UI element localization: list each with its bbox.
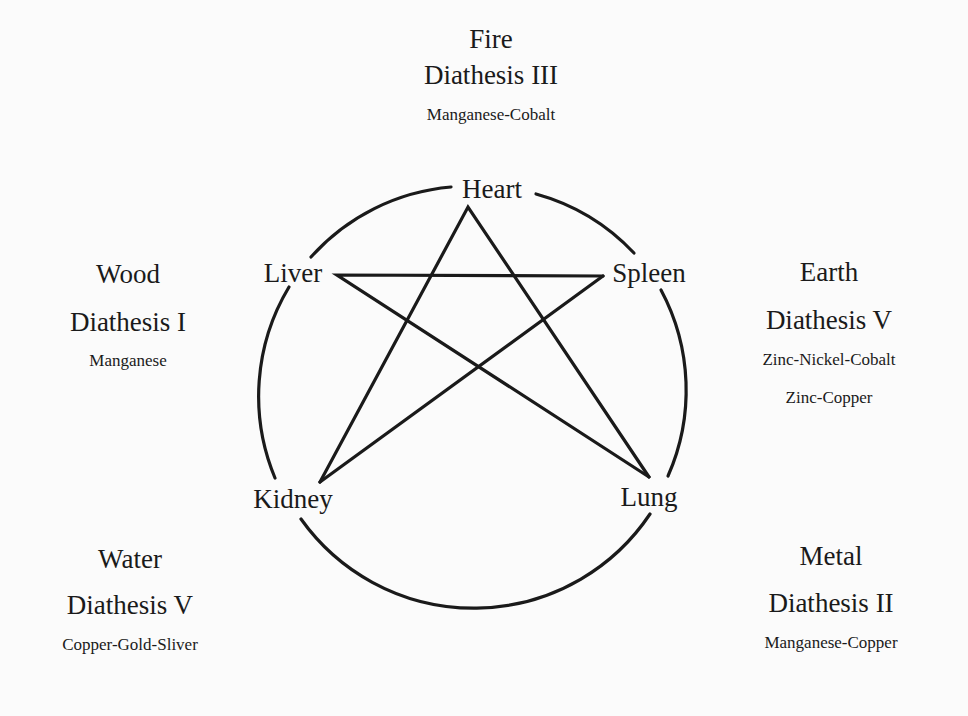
mineral-label: Copper-Gold-Sliver bbox=[62, 635, 198, 655]
element-name: Metal bbox=[764, 541, 897, 571]
arc-spleen-lung bbox=[661, 290, 686, 476]
star-line-lung-liver-spleen bbox=[337, 275, 649, 477]
organ-spleen: Spleen bbox=[612, 258, 686, 288]
diathesis-label: Diathesis I bbox=[70, 307, 186, 337]
mineral-label: Zinc-Nickel-Cobalt bbox=[762, 350, 895, 370]
diathesis-label: Diathesis V bbox=[762, 305, 895, 335]
mineral-label: Manganese-Cobalt bbox=[424, 105, 558, 125]
organ-liver: Liver bbox=[264, 258, 322, 288]
arc-heart-spleen bbox=[536, 194, 634, 253]
arc-liver-heart bbox=[311, 187, 451, 257]
arc-lung-kidney bbox=[301, 514, 650, 608]
element-name: Earth bbox=[762, 257, 895, 287]
arc-kidney-liver bbox=[259, 287, 289, 478]
element-water: Water Diathesis V Copper-Gold-Sliver bbox=[62, 544, 198, 655]
diathesis-label: Diathesis III bbox=[424, 60, 558, 90]
element-fire: Fire Diathesis III Manganese-Cobalt bbox=[424, 24, 558, 125]
element-wood: Wood Diathesis I Manganese bbox=[70, 259, 186, 371]
diathesis-label: Diathesis II bbox=[764, 588, 897, 618]
star-line-spleen-kidney bbox=[320, 276, 603, 482]
star-line-kidney-heart-lung bbox=[320, 207, 649, 482]
mineral-label: Manganese-Copper bbox=[764, 633, 897, 653]
mineral-label: Manganese bbox=[70, 351, 186, 371]
element-earth: Earth Diathesis V Zinc-Nickel-Cobalt Zin… bbox=[762, 257, 895, 408]
mineral-label: Zinc-Copper bbox=[762, 388, 895, 408]
element-name: Water bbox=[62, 544, 198, 574]
element-metal: Metal Diathesis II Manganese-Copper bbox=[764, 541, 897, 653]
element-name: Wood bbox=[70, 259, 186, 289]
organ-kidney: Kidney bbox=[253, 484, 332, 514]
organ-lung: Lung bbox=[621, 482, 678, 512]
organ-heart: Heart bbox=[462, 174, 522, 204]
element-name: Fire bbox=[424, 24, 558, 54]
diathesis-label: Diathesis V bbox=[62, 590, 198, 620]
